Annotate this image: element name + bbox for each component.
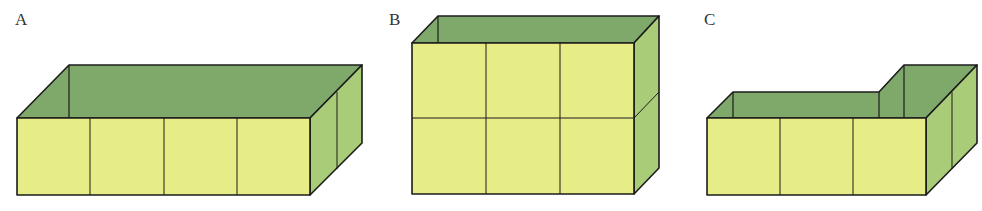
figure-c bbox=[707, 65, 977, 195]
figure-b bbox=[412, 16, 659, 194]
boxes-diagram bbox=[0, 0, 982, 211]
figure-a bbox=[17, 65, 362, 195]
